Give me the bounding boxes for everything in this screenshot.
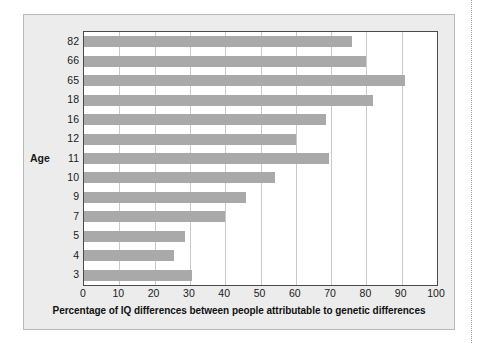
y-axis-tick-label: 5 bbox=[46, 230, 79, 241]
y-axis-tick-label: 66 bbox=[46, 55, 79, 66]
x-axis-tick-label: 100 bbox=[427, 288, 445, 299]
y-axis-tick-label: 82 bbox=[46, 36, 79, 47]
bar bbox=[84, 36, 352, 47]
bar bbox=[84, 75, 405, 86]
y-axis-tick-label: 11 bbox=[46, 153, 79, 164]
bar-row bbox=[84, 110, 437, 129]
bar bbox=[84, 134, 296, 145]
y-axis-tick-label: 12 bbox=[46, 133, 79, 144]
bar-row bbox=[84, 266, 437, 285]
bar-row bbox=[84, 246, 437, 265]
x-axis-tick-label: 80 bbox=[360, 288, 372, 299]
bar-row bbox=[84, 227, 437, 246]
bar-row bbox=[84, 188, 437, 207]
x-axis-tick-label: 20 bbox=[148, 288, 160, 299]
bars-layer bbox=[84, 32, 437, 285]
x-axis-tick-label: 90 bbox=[395, 288, 407, 299]
x-axis-tick-label: 70 bbox=[324, 288, 336, 299]
bar bbox=[84, 270, 192, 281]
bar-row bbox=[84, 90, 437, 109]
page-margin-dotted-rule bbox=[471, 0, 472, 343]
bar bbox=[84, 211, 225, 222]
x-axis-title: Percentage of IQ differences between peo… bbox=[24, 305, 454, 316]
bar bbox=[84, 192, 246, 203]
bar bbox=[84, 250, 174, 261]
y-axis-tick-label: 18 bbox=[46, 94, 79, 105]
bar-row bbox=[84, 51, 437, 70]
y-axis-tick-label: 9 bbox=[46, 191, 79, 202]
y-axis-tick-label: 65 bbox=[46, 75, 79, 86]
bar-row bbox=[84, 168, 437, 187]
bar bbox=[84, 231, 185, 242]
bar bbox=[84, 95, 373, 106]
y-axis-tick-labels: 826665181612111097543 bbox=[46, 31, 79, 284]
bar bbox=[84, 56, 366, 67]
x-axis-tick-label: 0 bbox=[80, 288, 86, 299]
y-axis-tick-label: 7 bbox=[46, 211, 79, 222]
bar-row bbox=[84, 71, 437, 90]
x-axis-tick-label: 40 bbox=[218, 288, 230, 299]
y-axis-tick-label: 4 bbox=[46, 250, 79, 261]
figure-panel: Age 826665181612111097543 01020304050607… bbox=[23, 14, 455, 330]
plot-area bbox=[83, 31, 438, 286]
bar bbox=[84, 153, 329, 164]
x-axis-tick-label: 30 bbox=[183, 288, 195, 299]
x-axis-tick-label: 60 bbox=[289, 288, 301, 299]
bar bbox=[84, 114, 326, 125]
x-axis-tick-labels: 0102030405060708090100 bbox=[83, 288, 436, 302]
x-axis-tick-label: 10 bbox=[112, 288, 124, 299]
y-axis-tick-label: 10 bbox=[46, 172, 79, 183]
y-axis-tick-label: 16 bbox=[46, 114, 79, 125]
bar-row bbox=[84, 32, 437, 51]
y-axis-tick-label: 3 bbox=[46, 269, 79, 280]
bar bbox=[84, 172, 275, 183]
bar-row bbox=[84, 207, 437, 226]
bar-row bbox=[84, 129, 437, 148]
bar-row bbox=[84, 149, 437, 168]
x-axis-tick-label: 50 bbox=[254, 288, 266, 299]
